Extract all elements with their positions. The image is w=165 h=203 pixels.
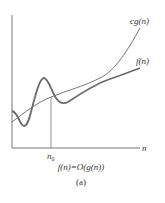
- panel-label: (a): [76, 177, 86, 187]
- n0-label: n0: [47, 151, 55, 162]
- big-o-chart: cg(n) f(n) n n0 f(n)=O(g(n)) (a): [0, 0, 165, 203]
- x-axis-label: n: [142, 143, 147, 153]
- cg-label: cg(n): [130, 16, 149, 26]
- equation-caption: f(n)=O(g(n)): [58, 162, 105, 172]
- f-label: f(n): [136, 56, 149, 66]
- f-curve: [12, 68, 140, 126]
